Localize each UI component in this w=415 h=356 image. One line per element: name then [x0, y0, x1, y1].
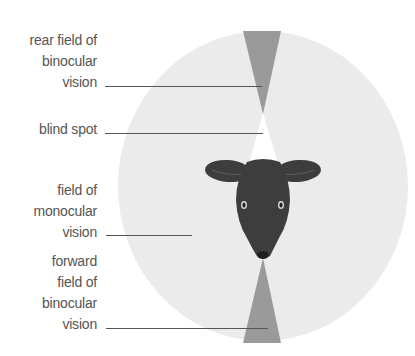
label-line: binocular: [42, 293, 97, 314]
label-line: forward: [42, 251, 97, 272]
label-line: rear field of: [30, 30, 97, 51]
label-line: vision: [42, 314, 97, 335]
label-line: monocular: [33, 201, 97, 222]
label-blind-spot: blind spot: [39, 119, 97, 140]
label-line: vision: [30, 72, 97, 93]
label-line: field of: [42, 272, 97, 293]
label-rear-binocular-vision: rear field of binocular vision: [30, 30, 97, 93]
label-forward-binocular-vision: forward field of binocular vision: [42, 251, 97, 335]
label-monocular-vision: field of monocular vision: [33, 180, 97, 243]
label-line: blind spot: [39, 119, 97, 140]
label-line: field of: [33, 180, 97, 201]
label-line: vision: [33, 222, 97, 243]
nose: [257, 251, 269, 259]
label-line: binocular: [30, 51, 97, 72]
